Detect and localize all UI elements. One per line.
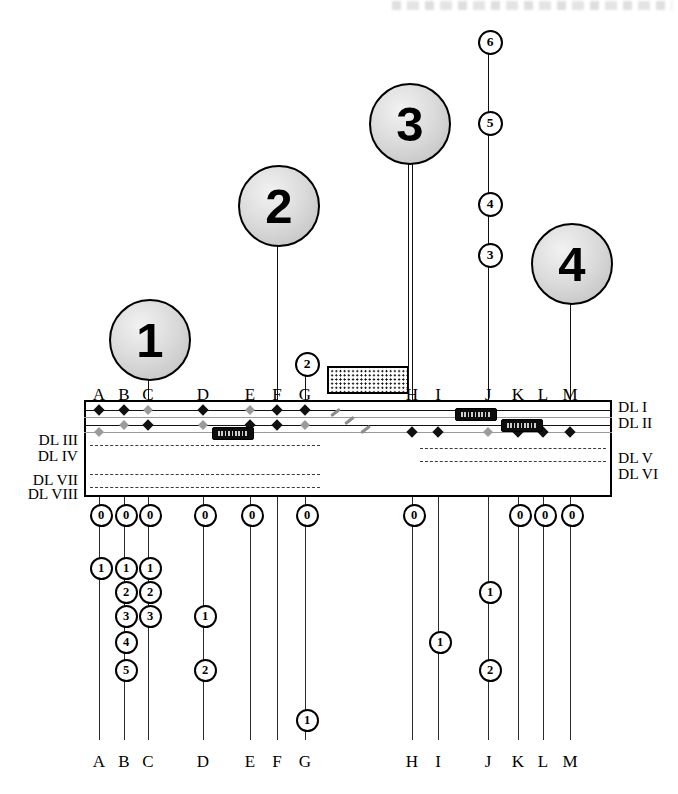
below-chip-B-4[interactable]: 4 (115, 631, 138, 654)
below-chip-E-0[interactable]: 0 (241, 504, 264, 527)
column-letter-bottom-H: H (406, 752, 418, 772)
cable-label-tag (501, 419, 543, 432)
dl-label-dl-vi: DL VI (618, 465, 658, 483)
above-chip-J-6[interactable]: 6 (478, 30, 503, 55)
column-letter-bottom-M: M (562, 752, 577, 772)
balloon-2[interactable]: 2 (238, 165, 320, 247)
below-chip-H-0[interactable]: 0 (403, 504, 426, 527)
dl-label-dl-ii: DL II (618, 414, 652, 432)
cable-line-2 (84, 417, 612, 418)
column-letter-top-C: C (142, 385, 153, 405)
column-letter-bottom-B: B (118, 752, 129, 772)
column-letter-bottom-L: L (538, 752, 548, 772)
above-chip-J-5[interactable]: 5 (478, 111, 503, 136)
cable-label-tag (455, 408, 497, 421)
below-chip-B-1[interactable]: 1 (115, 557, 138, 580)
cable-line-4 (84, 432, 612, 433)
column-letter-top-H: H (406, 385, 418, 405)
column-letter-bottom-J: J (485, 752, 492, 772)
column-letter-bottom-K: K (512, 752, 524, 772)
above-chip-J-4[interactable]: 4 (478, 192, 503, 217)
drop-line-L (543, 497, 544, 740)
column-letter-top-L: L (538, 385, 548, 405)
drop-line-H (412, 497, 413, 740)
below-chip-D-2[interactable]: 2 (194, 659, 217, 682)
column-letter-bottom-E: E (245, 752, 255, 772)
column-letter-bottom-D: D (197, 752, 209, 772)
column-letter-bottom-A: A (93, 752, 105, 772)
column-letter-top-M: M (562, 385, 577, 405)
dl-label-dl-viii: DL VIII (28, 485, 78, 503)
dl-label-dl-iv: DL IV (38, 447, 78, 465)
column-letter-bottom-F: F (272, 752, 281, 772)
cable-label-tag (212, 427, 254, 440)
drop-line-I (438, 497, 439, 740)
drop-line-A (99, 497, 100, 740)
column-letter-top-E: E (245, 385, 255, 405)
below-chip-D-1[interactable]: 1 (194, 605, 217, 628)
balloon-4[interactable]: 4 (531, 223, 613, 305)
column-letter-top-K: K (512, 385, 524, 405)
column-letter-bottom-I: I (435, 752, 441, 772)
below-chip-J-1[interactable]: 1 (479, 581, 502, 604)
column-letter-top-D: D (197, 385, 209, 405)
below-chip-M-0[interactable]: 0 (561, 504, 584, 527)
column-letter-top-I: I (435, 385, 441, 405)
below-chip-A-0[interactable]: 0 (90, 504, 113, 527)
column-letter-top-J: J (485, 385, 492, 405)
below-chip-B-3[interactable]: 3 (115, 605, 138, 628)
diagram-canvas: 1234654320101234501230120010112000AABBCC… (0, 0, 678, 794)
above-chip-G-2[interactable]: 2 (295, 352, 320, 377)
below-chip-C-2[interactable]: 2 (139, 581, 162, 604)
column-letter-bottom-C: C (142, 752, 153, 772)
drop-line-E (250, 497, 251, 740)
below-chip-C-3[interactable]: 3 (139, 605, 162, 628)
drop-line-F (277, 497, 278, 740)
drop-line-K (518, 497, 519, 740)
balloon-3[interactable]: 3 (369, 83, 451, 165)
scanned-header-artifact (392, 1, 672, 10)
below-chip-D-0[interactable]: 0 (194, 504, 217, 527)
below-chip-K-0[interactable]: 0 (509, 504, 532, 527)
below-chip-G-1[interactable]: 1 (296, 709, 319, 732)
balloon-stem-3 (408, 161, 409, 400)
hatched-block (327, 366, 409, 394)
below-chip-G-0[interactable]: 0 (296, 504, 319, 527)
balloon-1[interactable]: 1 (109, 299, 191, 381)
below-chip-L-0[interactable]: 0 (534, 504, 557, 527)
below-chip-B-2[interactable]: 2 (115, 581, 138, 604)
below-chip-I-1[interactable]: 1 (429, 631, 452, 654)
column-letter-top-G: G (299, 385, 311, 405)
drop-line-G (305, 497, 306, 740)
below-chip-B-5[interactable]: 5 (115, 659, 138, 682)
column-letter-top-A: A (93, 385, 105, 405)
column-letter-bottom-G: G (299, 752, 311, 772)
below-chip-A-1[interactable]: 1 (90, 557, 113, 580)
drop-line-M (570, 497, 571, 740)
column-letter-top-B: B (118, 385, 129, 405)
above-chip-J-3[interactable]: 3 (478, 243, 503, 268)
column-letter-top-F: F (272, 385, 281, 405)
cable-line-1 (84, 410, 612, 411)
below-chip-B-0[interactable]: 0 (115, 504, 138, 527)
below-chip-C-1[interactable]: 1 (139, 557, 162, 580)
below-chip-J-2[interactable]: 2 (479, 659, 502, 682)
balloon-stem-2 (277, 243, 278, 400)
below-chip-C-0[interactable]: 0 (139, 504, 162, 527)
drop-line-J (488, 497, 489, 740)
